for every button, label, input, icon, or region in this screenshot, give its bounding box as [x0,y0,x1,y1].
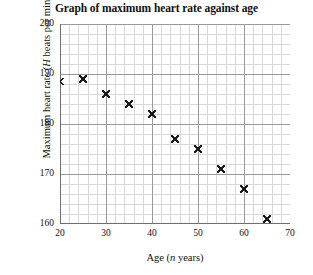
scatter-plot-canvas [60,24,290,224]
x-axis-title-suffix: years) [175,252,203,263]
y-axis-tick-label: 160 [28,218,54,228]
data-point-marker [217,165,224,172]
data-point-marker [171,135,178,142]
data-point-markers [60,75,271,222]
x-axis-tick-label: 40 [139,228,165,238]
plot-area [60,24,290,224]
y-axis-tick-label: 200 [28,18,54,28]
y-axis-tick-label: 190 [28,68,54,78]
data-point-marker [79,75,86,82]
x-axis-tick-label: 30 [93,228,119,238]
y-axis-tick-label: 170 [28,168,54,178]
y-axis-title-prefix: Maximum heart rate ( [41,67,52,159]
x-axis-tick-label: 70 [277,228,303,238]
x-axis-title: Age (n years) [60,252,290,263]
x-axis-tick-label: 60 [231,228,257,238]
x-axis-title-prefix: Age ( [146,252,170,263]
data-point-marker [263,215,270,222]
x-axis-tick-label: 20 [47,228,73,238]
x-axis-tick-label: 50 [185,228,211,238]
chart-figure: Graph of maximum heart rate against age … [0,0,313,275]
y-axis-tick-label: 180 [28,118,54,128]
y-axis-title-variable: H [41,59,52,67]
y-axis-title-suffix: beats per minute) [41,0,52,59]
